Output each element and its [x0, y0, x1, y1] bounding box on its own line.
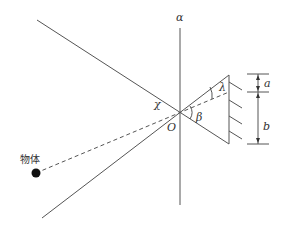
optics-diagram: α 物体 β λ χ O a b — [0, 0, 283, 235]
angle-beta-label: β — [195, 111, 202, 124]
object-ray-dashed — [36, 92, 229, 173]
angle-lambda-arc — [210, 87, 212, 99]
object-dot — [32, 169, 41, 178]
upper-left-ray — [37, 20, 229, 144]
dimension-a-label: a — [264, 77, 271, 90]
dimension-b-label: b — [263, 120, 270, 133]
axis-label-alpha: α — [176, 11, 184, 24]
origin-label: O — [167, 121, 176, 134]
angle-chi-label: χ — [153, 98, 162, 111]
object-label: 物体 — [20, 153, 40, 165]
angle-lambda-label: λ — [218, 81, 226, 94]
lower-left-ray — [42, 75, 229, 218]
mirror-hatching — [229, 82, 242, 139]
